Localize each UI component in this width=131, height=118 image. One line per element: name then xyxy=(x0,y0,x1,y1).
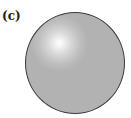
panel-label: (c) xyxy=(2,9,21,23)
sphere-illustration xyxy=(25,12,125,114)
figure-panel: (c) xyxy=(0,0,131,118)
